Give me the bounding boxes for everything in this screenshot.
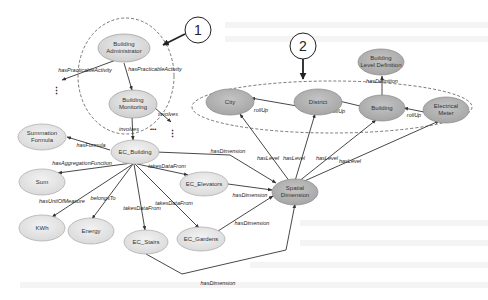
callout-1: 1 bbox=[163, 17, 211, 45]
node-label: Level Definition bbox=[360, 62, 401, 68]
node-ec-elevators[interactable]: EC_Elevators bbox=[180, 172, 228, 196]
node-label: EC_Stairs bbox=[132, 239, 159, 245]
node-label: Energy bbox=[81, 228, 100, 234]
ellipsis-marker: ••• bbox=[150, 126, 156, 132]
node-label: EC_Building bbox=[118, 149, 151, 155]
edge-label: hasDimension bbox=[233, 192, 268, 198]
node-ec-stairs[interactable]: EC_Stairs bbox=[124, 230, 168, 254]
node-label: EC_Elevators bbox=[186, 181, 223, 187]
node-label: City bbox=[225, 99, 235, 105]
edge-label: rollUp bbox=[407, 112, 421, 118]
ontology-diagram: 1 2 hasPracticableActivity hasPracticabl… bbox=[0, 0, 488, 300]
edge-label: hasLevel bbox=[257, 155, 280, 161]
edge-label: hasDimension bbox=[201, 280, 236, 286]
edge-label: hasLevel bbox=[339, 158, 362, 164]
edge-label: hasLevel bbox=[316, 155, 339, 161]
edge-label: hasFormula bbox=[76, 142, 105, 148]
node-label: Administrator bbox=[106, 48, 141, 54]
node-label: Formula bbox=[31, 137, 54, 143]
node-label: Summation bbox=[27, 130, 57, 136]
node-label: Building bbox=[371, 105, 392, 111]
node-label: Spatial bbox=[286, 185, 304, 191]
callout-2: 2 bbox=[290, 33, 316, 79]
node-summation-formula[interactable]: Summation Formula bbox=[18, 124, 66, 150]
node-building-level-definition[interactable]: Building Level Definition bbox=[358, 49, 404, 75]
callout-1-label: 1 bbox=[194, 22, 202, 38]
node-spatial-dimension[interactable]: Spatial Dimension bbox=[272, 179, 318, 205]
edge-label: takesDataFrom bbox=[155, 200, 193, 206]
edge-label: takesDataFrom bbox=[148, 163, 186, 169]
edge-label: involves bbox=[119, 126, 139, 132]
edge-label: belongsTo bbox=[90, 195, 115, 201]
continuation-marker: ⋮ bbox=[168, 129, 177, 139]
node-city[interactable]: City bbox=[206, 89, 254, 115]
continuation-marker: ⋮ bbox=[52, 86, 61, 96]
edge-takesDataFrom-gardens bbox=[135, 164, 199, 228]
node-sum[interactable]: Sum bbox=[19, 169, 65, 195]
node-label: Sum bbox=[36, 179, 48, 185]
node-label: Building bbox=[113, 41, 134, 47]
node-label: KWh bbox=[35, 225, 48, 231]
node-label: Building bbox=[370, 55, 391, 61]
edge-label: hasAggregationFunction bbox=[52, 160, 112, 166]
node-label: Electrical bbox=[434, 103, 458, 109]
edge-hasLevel-building bbox=[298, 120, 376, 182]
node-building-monitoring[interactable]: Building Monitoring bbox=[109, 90, 157, 118]
node-building-administrator[interactable]: Building Administrator bbox=[98, 34, 150, 62]
edge-label: involves bbox=[158, 111, 178, 117]
node-district[interactable]: District bbox=[294, 89, 342, 115]
edge-rollUp-district-city bbox=[251, 98, 297, 106]
node-ec-building[interactable]: EC_Building bbox=[111, 140, 159, 164]
node-label: EC_Gardens bbox=[184, 236, 219, 242]
edge-hasLevel-city bbox=[240, 114, 290, 182]
node-electrical-meter[interactable]: Electrical Meter bbox=[423, 97, 469, 123]
callout-2-label: 2 bbox=[299, 38, 307, 54]
node-ec-gardens[interactable]: EC_Gardens bbox=[177, 227, 225, 251]
edge-label: hasPracticableActivity bbox=[58, 67, 113, 73]
edge-label: hasUnitOfMeasure bbox=[39, 198, 85, 204]
edge-label: hasDimension bbox=[211, 148, 246, 154]
node-building[interactable]: Building bbox=[359, 95, 405, 121]
node-label: Monitoring bbox=[119, 104, 147, 110]
node-label: Dimension bbox=[281, 192, 309, 198]
edge-takesDataFrom-stairs bbox=[134, 164, 145, 230]
edge-hasLevel-meter bbox=[300, 121, 439, 183]
node-label: Meter bbox=[438, 110, 453, 116]
edge-label: hasLevel bbox=[283, 155, 306, 161]
node-label: Building bbox=[122, 97, 143, 103]
edge-label: hasDefinition bbox=[366, 78, 398, 84]
edge-label: hasPracticableActivity bbox=[128, 66, 183, 72]
node-energy[interactable]: Energy bbox=[68, 218, 114, 244]
node-label: District bbox=[309, 99, 328, 105]
node-kwh[interactable]: KWh bbox=[19, 215, 65, 241]
edge-label: hasDimension bbox=[235, 220, 270, 226]
edge-hasDimension-elevators bbox=[228, 184, 272, 190]
edge-label: rollUp bbox=[254, 107, 268, 113]
